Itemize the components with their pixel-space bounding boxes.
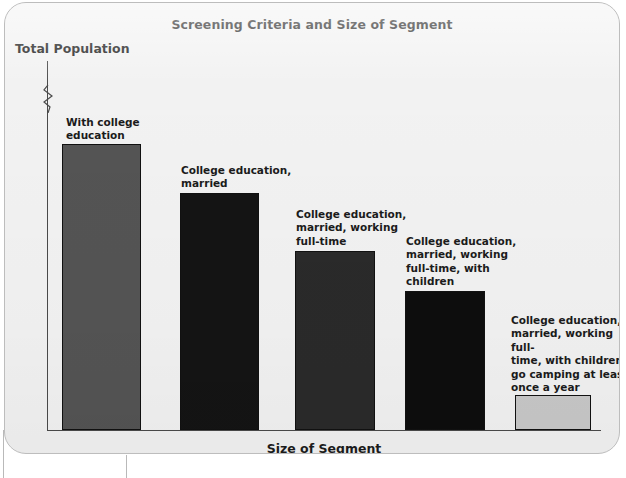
y-axis-label: Total Population: [15, 41, 130, 56]
bar-label-4: College education, married, working full…: [406, 235, 536, 289]
figure-panel: Screening Criteria and Size of Segment T…: [4, 2, 620, 454]
bar-4: [405, 291, 485, 430]
bar-1: [62, 144, 141, 430]
page-column-rule: [126, 455, 127, 478]
bar-2: [180, 193, 259, 430]
x-axis-label: Size of Segment: [47, 441, 601, 454]
bar-5: [515, 395, 591, 430]
y-axis-line: [47, 61, 48, 430]
x-axis-line: [47, 430, 601, 431]
bar-label-1: With college education: [66, 116, 186, 143]
bar-label-2: College education, married: [181, 164, 311, 191]
page-canvas: Screening Criteria and Size of Segment T…: [0, 0, 626, 478]
axis-break-icon: [39, 85, 57, 113]
bar-3: [295, 251, 375, 430]
chart-title: Screening Criteria and Size of Segment: [5, 17, 619, 32]
bar-label-5: College education, married, working full…: [511, 314, 620, 395]
